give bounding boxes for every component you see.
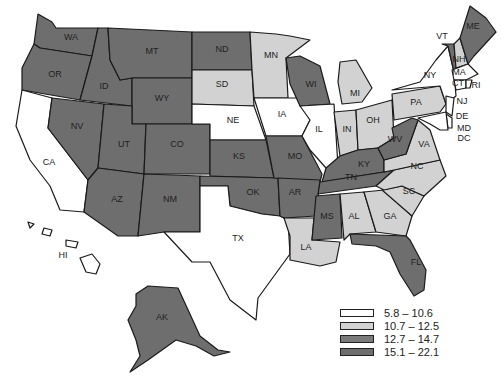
label-HI: HI xyxy=(59,250,68,260)
label-AK: AK xyxy=(156,312,168,322)
label-CA: CA xyxy=(43,157,56,167)
label-OH: OH xyxy=(366,115,380,125)
label-NC: NC xyxy=(411,161,424,171)
label-NH: NH xyxy=(453,54,466,64)
legend-item: 15.1 – 22.1 xyxy=(340,345,439,358)
label-WI: WI xyxy=(306,79,317,89)
label-GA: GA xyxy=(383,211,396,221)
label-WY: WY xyxy=(155,93,170,103)
legend-item: 12.7 – 14.7 xyxy=(340,332,439,345)
label-SD: SD xyxy=(216,79,229,89)
label-AZ: AZ xyxy=(111,194,123,204)
label-NE: NE xyxy=(227,115,240,125)
label-OK: OK xyxy=(246,187,259,197)
label-LA: LA xyxy=(300,242,311,252)
label-VT: VT xyxy=(436,31,448,41)
label-DE: DE xyxy=(456,111,469,121)
label-NJ: NJ xyxy=(457,96,468,106)
legend-swatch-medium-gray xyxy=(340,335,374,343)
state-AK xyxy=(128,286,230,372)
label-UT: UT xyxy=(118,139,130,149)
label-KS: KS xyxy=(233,151,245,161)
label-NM: NM xyxy=(163,194,177,204)
legend-item: 5.8 – 10.6 xyxy=(340,306,439,319)
state-NJ xyxy=(446,96,454,116)
label-FL: FL xyxy=(411,257,422,267)
label-AR: AR xyxy=(289,187,302,197)
label-ND: ND xyxy=(216,44,229,54)
legend-label: 10.7 – 12.5 xyxy=(384,320,439,332)
label-TN: TN xyxy=(345,172,357,182)
label-SC: SC xyxy=(403,186,416,196)
label-MO: MO xyxy=(288,151,303,161)
state-HI xyxy=(28,222,100,274)
label-IL: IL xyxy=(315,124,323,134)
label-MT: MT xyxy=(146,46,159,56)
legend-swatch-light-gray xyxy=(340,322,374,330)
state-NM xyxy=(138,174,200,236)
label-CO: CO xyxy=(170,139,184,149)
label-PA: PA xyxy=(410,97,421,107)
legend-label: 5.8 – 10.6 xyxy=(384,307,433,319)
label-WV: WV xyxy=(388,134,403,144)
label-IA: IA xyxy=(278,109,287,119)
label-DC: DC xyxy=(458,133,471,143)
label-WA: WA xyxy=(64,32,78,42)
label-IN: IN xyxy=(343,124,352,134)
label-OR: OR xyxy=(48,69,62,79)
label-ID: ID xyxy=(100,81,110,91)
legend-item: 10.7 – 12.5 xyxy=(340,319,439,332)
label-TX: TX xyxy=(232,233,244,243)
label-MN: MN xyxy=(264,50,278,60)
label-ME: ME xyxy=(466,21,480,31)
label-NV: NV xyxy=(71,121,84,131)
label-RI: RI xyxy=(472,80,481,90)
label-KY: KY xyxy=(358,159,370,169)
label-MA: MA xyxy=(452,67,466,77)
legend-swatch-dark-gray xyxy=(340,348,374,356)
legend-swatch-white xyxy=(340,309,374,317)
state-AR xyxy=(278,178,320,218)
label-MD: MD xyxy=(457,123,471,133)
label-MI: MI xyxy=(350,88,360,98)
legend-label: 15.1 – 22.1 xyxy=(384,346,439,358)
label-NY: NY xyxy=(424,70,437,80)
label-MS: MS xyxy=(320,211,334,221)
label-CT: CT xyxy=(452,78,464,88)
label-VA: VA xyxy=(418,139,429,149)
legend-label: 12.7 – 14.7 xyxy=(384,333,439,345)
label-AL: AL xyxy=(348,211,359,221)
map-legend: 5.8 – 10.6 10.7 – 12.5 12.7 – 14.7 15.1 … xyxy=(340,306,439,358)
